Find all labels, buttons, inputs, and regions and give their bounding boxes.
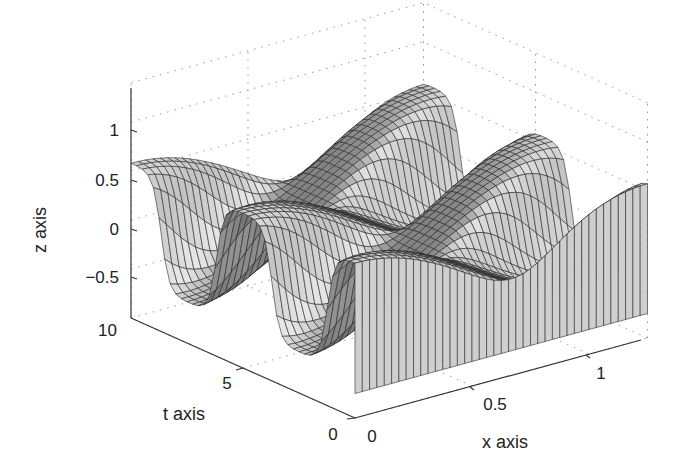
surface-curtain-face (472, 275, 479, 361)
surface-curtain-face (611, 195, 618, 323)
t-tick-label: 5 (222, 374, 231, 393)
x-tick (586, 355, 590, 358)
surface-curtain-face (443, 266, 450, 370)
surface-curtain-face (414, 259, 421, 377)
surface-curtain-face (509, 277, 516, 351)
z-tick (131, 229, 137, 231)
surface-curtain-face (523, 269, 530, 348)
t-tick (236, 368, 243, 370)
t-tick (347, 418, 355, 419)
surface-curtain-face (633, 186, 640, 318)
surface-curtain-face (457, 270, 464, 365)
surface-curtain-face (531, 263, 538, 346)
surface-curtain-face (355, 261, 362, 393)
x-tick (470, 387, 474, 390)
surface-curtain-face (538, 256, 545, 344)
t-tick-label: 0 (328, 425, 337, 444)
surface-curtain-face (596, 204, 603, 328)
surface-curtain-face (560, 234, 567, 338)
t-tick-label: 10 (98, 321, 117, 340)
x-tick-label: 0 (367, 427, 376, 446)
surface-curtain-face (618, 192, 625, 322)
surface-curtain-face (545, 248, 552, 341)
surface-plot: 1 0.5 0 −0.5 10 5 0 0 0.5 1 t axis x axi… (0, 0, 678, 474)
surface-curtain-face (392, 258, 399, 384)
z-axis-label: z axis (30, 207, 50, 253)
surface-curtain-face (421, 261, 428, 376)
surface-curtain-face (574, 220, 581, 333)
t-axis-label: t axis (163, 404, 205, 424)
surface-curtain-face (516, 274, 523, 350)
surface-curtain-face (626, 189, 633, 320)
surface-curtain-face (450, 268, 457, 368)
surface-curtain-face (362, 260, 369, 392)
surface-curtain-face (487, 279, 494, 357)
surface-curtain-face (479, 277, 486, 359)
surface-curtain-face (399, 258, 406, 381)
x-tick-label: 1 (596, 364, 605, 383)
surface-curtain-face (428, 262, 435, 374)
grid-line (424, 3, 648, 103)
surface-curtain-face (435, 264, 442, 372)
z-tick (131, 180, 137, 182)
grid-line (131, 3, 424, 83)
surface-curtain-face (552, 241, 559, 340)
surface-curtain-face (465, 273, 472, 364)
surface-curtain-face (406, 259, 413, 380)
z-tick-label: 0 (110, 220, 119, 239)
z-tick (131, 277, 137, 279)
surface-curtain-face (370, 259, 377, 390)
x-axis-label: x axis (482, 432, 528, 452)
surface-curtain-face (604, 199, 611, 325)
surface-curtain-face (567, 227, 574, 336)
surface-mesh (131, 84, 648, 393)
surface-curtain-face (589, 209, 596, 330)
z-tick-label: −0.5 (85, 268, 119, 287)
z-tick-label: 1 (110, 121, 119, 140)
z-tick-label: 0.5 (95, 171, 119, 190)
z-tick (131, 130, 137, 132)
surface-curtain-face (494, 280, 501, 355)
surface-curtain-face (501, 280, 508, 354)
surface-curtain-face (582, 214, 589, 331)
x-tick-label: 0.5 (483, 395, 507, 414)
surface-curtain-face (384, 258, 391, 386)
surface-curtain-face (377, 258, 384, 387)
surface-curtain-face (640, 184, 647, 316)
